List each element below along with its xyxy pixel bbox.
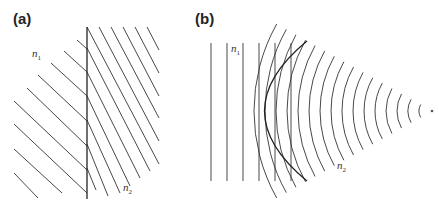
incident-wavefront: [64, 51, 87, 72]
incident-wavefront: [14, 173, 38, 198]
panel-b-medium-2-label: n2: [337, 159, 347, 174]
panel-a-medium-2-label: n2: [123, 181, 133, 196]
panel-b-label: (b): [195, 10, 214, 27]
incident-wavefront: [14, 149, 62, 193]
diagram-canvas: (a) n1 n2 (b) n1 n2: [0, 0, 439, 211]
incident-wavefront: [38, 75, 87, 121]
spherical-wavefront: [364, 78, 373, 144]
panel-b-spherical-wavefronts: [254, 24, 421, 198]
refracted-wavefront: [87, 168, 96, 190]
refracted-wavefront: [135, 27, 159, 73]
refracted-wavefront: [87, 96, 130, 186]
refracted-wavefront: [147, 27, 159, 50]
incident-wavefront: [77, 40, 87, 49]
spherical-wavefront: [386, 89, 392, 134]
spherical-wavefront: [287, 40, 305, 182]
refracted-wavefront: [99, 27, 159, 141]
panel-a-incident-wavefronts: [14, 40, 87, 198]
spherical-wavefront: [320, 56, 334, 165]
refracted-wavefront: [123, 27, 159, 96]
panel-b-medium-1-label: n1: [231, 42, 241, 57]
spherical-wavefront: [276, 35, 296, 187]
spherical-wavefront: [298, 46, 315, 177]
spherical-wavefront: [342, 67, 353, 155]
spherical-wavefront: [309, 51, 325, 171]
spherical-wavefront: [375, 83, 382, 139]
panel-a-medium-1-label: n1: [32, 47, 42, 62]
panel-b: (b) n1 n2: [195, 10, 433, 198]
spherical-wavefront: [419, 105, 421, 118]
panel-a-refracted-wavefronts: [87, 27, 159, 196]
spherical-wavefront: [353, 72, 363, 149]
incident-wavefront: [51, 63, 87, 96]
refracted-wavefront: [87, 144, 108, 196]
spherical-wavefront: [397, 94, 401, 128]
panel-b-focal-point: [431, 110, 434, 113]
panel-a: (a) n1 n2: [13, 10, 159, 199]
spherical-wavefront: [408, 99, 411, 122]
incident-wavefront: [27, 88, 87, 146]
panel-b-plane-wavefronts: [211, 43, 291, 181]
refracted-wavefront: [87, 48, 150, 171]
refracted-wavefront: [87, 72, 140, 178]
panel-a-label: (a): [13, 10, 31, 27]
panel-b-lens-surface: [265, 41, 308, 181]
refracted-wavefront: [111, 27, 159, 118]
